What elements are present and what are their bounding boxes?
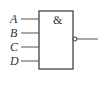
input-label-d: D xyxy=(10,55,19,67)
inversion-bubble xyxy=(73,37,77,41)
input-label-a: A xyxy=(10,13,17,25)
input-label-c: C xyxy=(10,41,18,53)
and-symbol: & xyxy=(53,14,62,26)
input-label-b: B xyxy=(10,27,17,39)
